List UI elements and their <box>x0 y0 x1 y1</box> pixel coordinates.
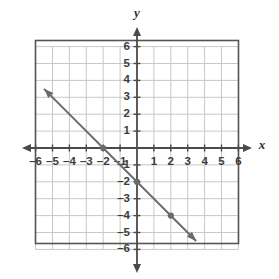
y-tick-label: –4 <box>117 209 130 221</box>
y-tick-label: 4 <box>124 73 131 85</box>
y-axis-bottom-arrowhead <box>133 264 141 273</box>
y-axis-top-arrowhead <box>133 27 141 36</box>
x-tick-label: –2 <box>97 155 110 167</box>
y-tick-label: 5 <box>124 57 131 69</box>
x-tick-label: –5 <box>46 155 59 167</box>
x-tick-label: –3 <box>80 155 93 167</box>
data-point <box>100 145 106 151</box>
y-tick-label: 1 <box>124 124 131 136</box>
data-point <box>168 213 174 219</box>
y-tick-label: 2 <box>124 107 130 119</box>
x-axis-right-arrowhead <box>243 144 252 152</box>
x-axis-label: x <box>258 137 266 152</box>
y-tick-label: –5 <box>117 226 130 238</box>
x-tick-label: 5 <box>218 155 225 167</box>
y-axis-label: y <box>132 5 140 20</box>
y-tick-label: 6 <box>124 40 130 52</box>
x-tick-label: –4 <box>63 155 76 167</box>
x-tick-label: 4 <box>201 155 208 167</box>
y-tick-labels: 654321–1–2–3–4–5–6 <box>117 40 130 255</box>
y-tick-label: –3 <box>117 192 130 204</box>
x-tick-label: 2 <box>168 155 174 167</box>
y-tick-label: –6 <box>117 242 130 254</box>
coordinate-plane-graph: –6–5–4–3–2–1123456 654321–1–2–3–4–5–6 x … <box>0 0 279 279</box>
x-tick-label: 1 <box>151 155 158 167</box>
y-tick-label: –2 <box>117 175 130 187</box>
data-point <box>134 179 140 185</box>
x-tick-label: 6 <box>235 155 241 167</box>
y-tick-label: 3 <box>124 90 130 102</box>
graph-canvas: –6–5–4–3–2–1123456 654321–1–2–3–4–5–6 x … <box>0 0 279 279</box>
x-axis-left-arrowhead <box>22 144 31 152</box>
x-tick-label: 3 <box>184 155 190 167</box>
x-tick-label: –6 <box>29 155 42 167</box>
